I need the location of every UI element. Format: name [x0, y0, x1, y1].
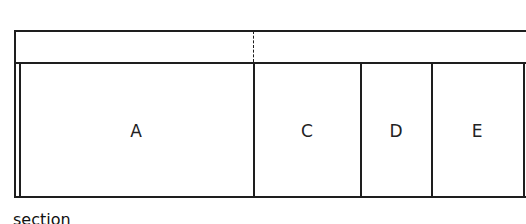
bottom-edge: [14, 196, 526, 198]
section-label-e: E: [472, 121, 483, 141]
diagram-caption: section: [13, 210, 71, 224]
section-label-d: D: [389, 121, 402, 141]
divider-a-c: [253, 63, 255, 197]
top-band: [14, 30, 526, 63]
divider-d-e: [431, 63, 433, 197]
inner-left-edge: [19, 63, 21, 198]
section-label-c: C: [301, 121, 313, 141]
top-band-dashed-divider: [253, 31, 254, 62]
top-band-top-edge: [14, 30, 526, 32]
outer-left-edge: [14, 30, 16, 198]
section-label-a: A: [130, 121, 142, 141]
divider-c-d: [360, 63, 362, 197]
divider-e-right: [523, 63, 525, 197]
top-band-bottom-edge: [14, 62, 526, 64]
